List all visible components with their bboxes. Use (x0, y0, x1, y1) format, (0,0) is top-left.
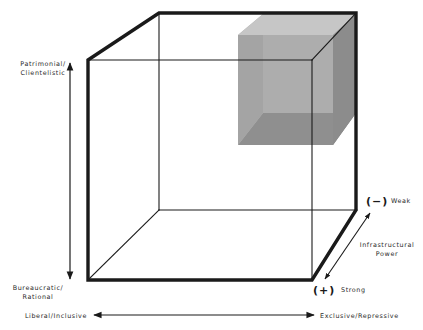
label-exclusive-repressive: Exclusive/Repressive (320, 312, 399, 320)
label-clientelistic: Clientelistic (21, 69, 66, 77)
sign-minus: (−) (366, 195, 388, 208)
label-patrimonial: Patrimonial/ (20, 60, 66, 68)
label-strong: Strong (341, 286, 366, 294)
label-bureaucratic: Bureaucratic/ (13, 284, 64, 292)
cube-typology-diagram: Patrimonial/ Clientelistic Bureaucratic/… (0, 0, 423, 330)
subcube-front-face (238, 35, 333, 145)
label-weak: Weak (391, 197, 411, 205)
sign-plus: (+) (313, 284, 335, 297)
highlighted-subcube (238, 14, 356, 145)
label-infrastructural: Infrastructural (360, 241, 415, 249)
label-rational: Rational (23, 293, 54, 301)
label-liberal-inclusive: Liberal/Inclusive (25, 312, 87, 320)
label-power: Power (376, 250, 398, 258)
cube-edge-bottom-left-depth (88, 210, 159, 280)
